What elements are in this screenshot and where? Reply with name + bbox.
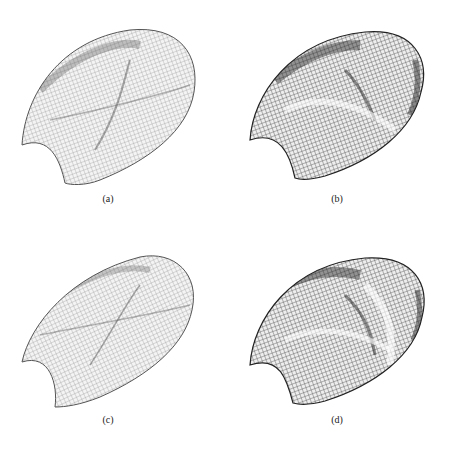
shell-mesh-b	[225, 0, 450, 225]
panel-caption-c: (c)	[88, 414, 128, 425]
panel-c: (c)	[0, 225, 225, 450]
panel-a: (a)	[0, 0, 225, 225]
panel-b: (b)	[225, 0, 450, 225]
panel-d: (d)	[225, 225, 450, 450]
panel-caption-a: (a)	[88, 193, 128, 204]
shell-mesh-a	[0, 0, 225, 225]
panel-caption-d: (d)	[317, 414, 357, 425]
panel-caption-b: (b)	[317, 193, 357, 204]
